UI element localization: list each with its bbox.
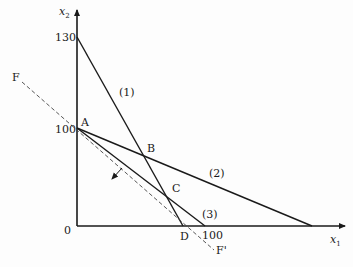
point-label-d: D bbox=[180, 231, 189, 242]
direction-arrow-icon bbox=[112, 168, 122, 179]
constraint-label-1: (1) bbox=[119, 87, 135, 98]
x2-axis-label: x2 bbox=[59, 6, 70, 17]
lp-diagram: x2 x1 0 130 100 100 (1) (2) (3) A B C D … bbox=[0, 0, 353, 267]
x1-axis-label: x1 bbox=[330, 234, 341, 245]
constraint-label-3: (3) bbox=[202, 209, 218, 220]
objective-label-f: F bbox=[12, 72, 20, 83]
objective-label-f-prime: F' bbox=[216, 245, 227, 256]
diagram-canvas bbox=[0, 0, 353, 267]
y-tick-130: 130 bbox=[55, 32, 76, 43]
constraint-line-3 bbox=[77, 128, 205, 226]
objective-line-dashed bbox=[22, 82, 214, 250]
origin-label: 0 bbox=[64, 225, 71, 236]
constraint-line-2 bbox=[77, 128, 312, 226]
point-label-b: B bbox=[147, 143, 155, 154]
point-label-a: A bbox=[81, 117, 89, 128]
x-tick-100: 100 bbox=[202, 230, 223, 241]
point-label-c: C bbox=[172, 183, 180, 194]
y-tick-100: 100 bbox=[55, 124, 76, 135]
constraint-label-2: (2) bbox=[209, 168, 225, 179]
